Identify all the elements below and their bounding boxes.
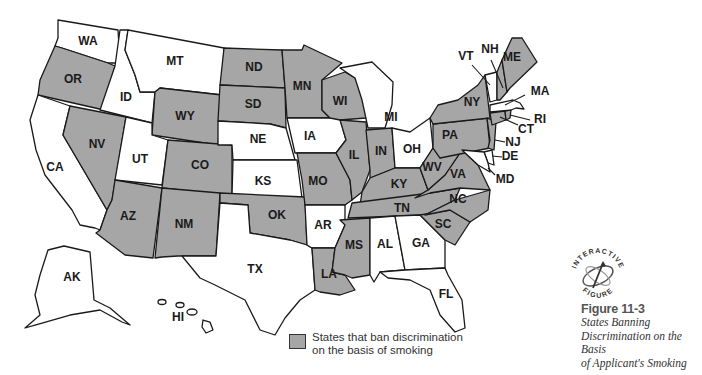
state-label-az: AZ (120, 209, 136, 223)
state-label-wa: WA (78, 34, 98, 48)
state-label-ky: KY (391, 177, 408, 191)
state-label-nj: NJ (505, 135, 520, 149)
state-label-ri: RI (534, 112, 546, 126)
state-label-nh: NH (481, 42, 498, 56)
state-label-la: LA (321, 267, 337, 281)
state-label-il: IL (349, 148, 360, 162)
legend-text: States that ban discrimination on the ba… (312, 331, 487, 357)
state-label-mn: MN (293, 79, 312, 93)
state-label-sd: SD (245, 97, 262, 111)
state-label-nv: NV (89, 137, 106, 151)
state-NY (430, 75, 490, 124)
state-label-ga: GA (412, 236, 430, 250)
figure-number: Figure 11-3 (581, 302, 702, 316)
state-label-de: DE (502, 149, 519, 163)
state-label-fl: FL (439, 287, 454, 301)
state-label-ct: CT (518, 122, 535, 136)
state-label-hi: HI (172, 310, 184, 324)
badge-bottom-text: FIGURE (582, 286, 615, 299)
state-label-al: AL (377, 237, 393, 251)
state-label-co: CO (191, 158, 209, 172)
state-label-ar: AR (314, 218, 332, 232)
figure-title-line-3: of Applicant's Smoking (581, 357, 702, 371)
badge-top-text: INTERACTIVE (570, 247, 625, 269)
legend-swatch (289, 334, 306, 349)
state-label-wv: WV (422, 160, 441, 174)
interactive-figure-badge[interactable]: INTERACTIVE FIGURE (565, 240, 631, 306)
state-label-mo: MO (308, 174, 327, 188)
state-label-ms: MS (345, 238, 363, 252)
state-label-wi: WI (333, 94, 348, 108)
leader-nj (495, 140, 505, 142)
state-label-ak: AK (63, 270, 81, 284)
svg-text:INTERACTIVE: INTERACTIVE (570, 247, 625, 269)
state-label-tx: TX (247, 262, 262, 276)
state-label-ut: UT (132, 152, 149, 166)
state-IA (287, 118, 346, 153)
state-label-in: IN (375, 144, 387, 158)
state-label-me: ME (503, 50, 521, 64)
legend-line-1: States that ban discrimination (312, 331, 487, 344)
state-label-tn: TN (394, 201, 410, 215)
legend-line-2: on the basis of smoking (312, 344, 487, 357)
state-label-mi: MI (384, 110, 397, 124)
state-label-ny: NY (464, 95, 481, 109)
state-MA (490, 100, 524, 112)
state-label-mt: MT (166, 54, 184, 68)
state-label-id: ID (120, 90, 132, 104)
state-label-ks: KS (255, 174, 272, 188)
svg-text:FIGURE: FIGURE (582, 286, 615, 299)
leader-ri (510, 115, 530, 120)
state-label-sc: SC (435, 217, 452, 231)
state-label-nd: ND (245, 60, 263, 74)
state-label-oh: OH (403, 142, 421, 156)
state-label-nm: NM (175, 217, 194, 231)
state-AK (25, 246, 130, 328)
state-label-ca: CA (46, 160, 64, 174)
state-label-wy: WY (175, 109, 194, 123)
figure-title-line-1: States Banning (581, 316, 702, 330)
state-label-md: MD (496, 172, 515, 186)
state-label-vt: VT (458, 49, 474, 63)
arrowhead-icon (600, 261, 606, 267)
state-label-ia: IA (304, 129, 316, 143)
state-label-or: OR (64, 72, 82, 86)
state-label-ne: NE (250, 132, 267, 146)
figure-title-line-2: Discrimination on the Basis (581, 330, 702, 357)
state-label-ma: MA (531, 84, 550, 98)
map-legend: States that ban discrimination on the ba… (289, 331, 487, 357)
state-HI (158, 300, 213, 334)
figure-caption: Figure 11-3 States Banning Discriminatio… (581, 302, 702, 370)
state-label-pa: PA (442, 128, 458, 142)
state-label-ok: OK (268, 208, 286, 222)
state-label-nc: NC (449, 192, 467, 206)
state-label-va: VA (450, 167, 466, 181)
